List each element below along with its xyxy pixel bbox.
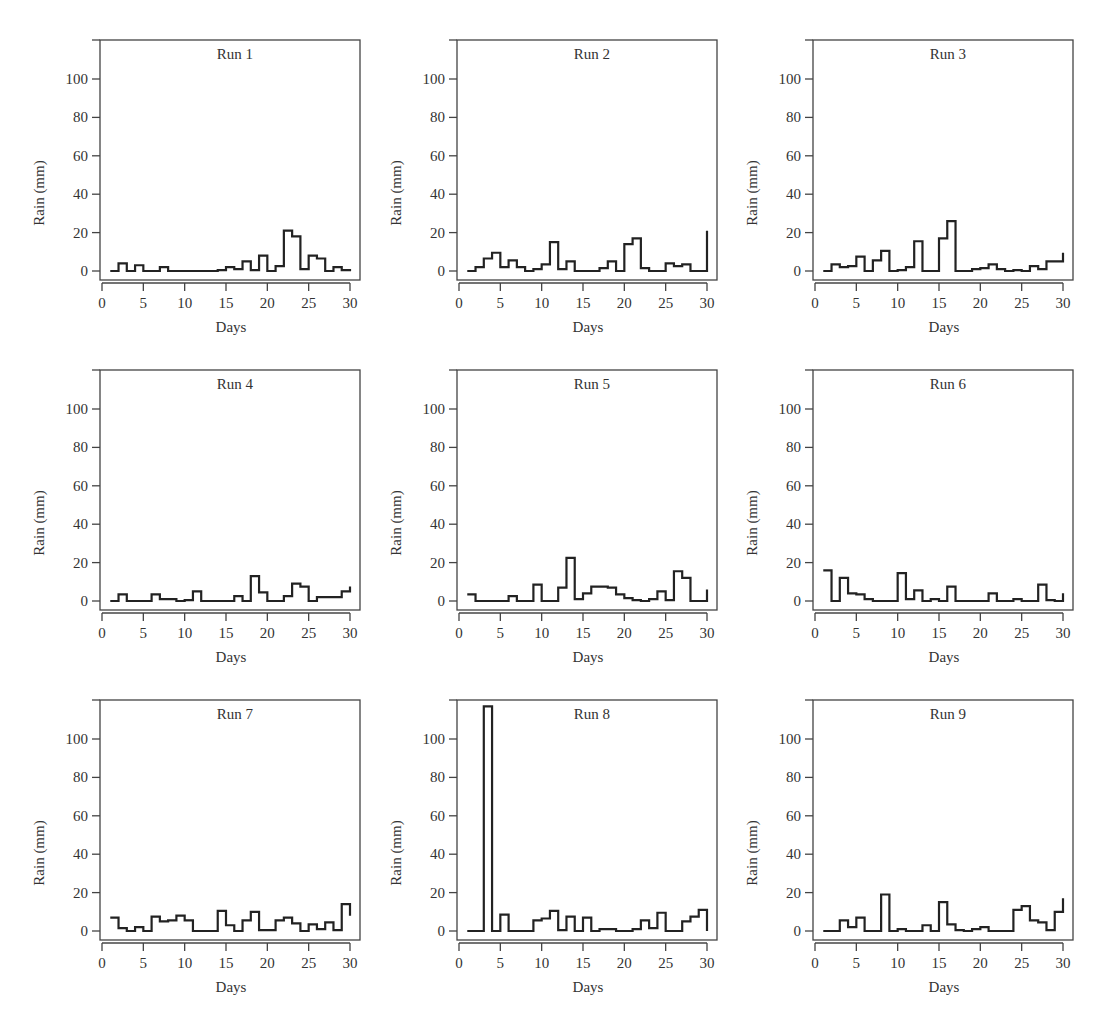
step-chart: 020406080100Rain (mm)051015202530DaysRun… — [357, 330, 737, 670]
step-chart: 020406080100Rain (mm)051015202530DaysRun… — [357, 0, 737, 340]
plot-frame — [100, 700, 360, 940]
y-tick-label: 20 — [786, 885, 801, 901]
y-axis: 020406080100 — [423, 700, 458, 939]
rain-series-line — [823, 221, 1063, 271]
y-axis-label: Rain (mm) — [744, 160, 761, 225]
rain-series-line — [467, 558, 707, 601]
y-tick-label: 20 — [786, 225, 801, 241]
y-tick-label: 40 — [73, 186, 88, 202]
plot-frame — [813, 700, 1073, 940]
x-tick-label: 5 — [497, 295, 505, 311]
y-axis-label: Rain (mm) — [31, 820, 48, 885]
chart-title: Run 1 — [217, 46, 253, 62]
y-axis: 020406080100 — [66, 370, 101, 609]
y-tick-label: 20 — [73, 885, 88, 901]
x-tick-label: 30 — [1056, 295, 1071, 311]
x-tick-label: 0 — [811, 625, 819, 641]
x-axis: 051015202530 — [811, 943, 1070, 971]
x-tick-label: 0 — [811, 295, 819, 311]
x-tick-label: 20 — [617, 955, 632, 971]
x-tick-label: 5 — [140, 295, 148, 311]
x-tick-label: 10 — [534, 295, 549, 311]
y-tick-label: 40 — [430, 516, 445, 532]
x-tick-label: 20 — [617, 295, 632, 311]
y-axis: 020406080100 — [66, 700, 101, 939]
y-tick-label: 100 — [779, 401, 802, 417]
y-tick-label: 80 — [73, 769, 88, 785]
y-axis-label: Rain (mm) — [744, 490, 761, 555]
x-tick-label: 10 — [890, 295, 905, 311]
y-tick-label: 80 — [430, 109, 445, 125]
y-tick-label: 40 — [430, 186, 445, 202]
y-axis: 020406080100 — [423, 370, 458, 609]
y-tick-label: 40 — [73, 516, 88, 532]
x-tick-label: 15 — [576, 625, 591, 641]
plot-frame — [100, 370, 360, 610]
rain-series-line — [467, 231, 707, 271]
x-tick-label: 25 — [1014, 625, 1029, 641]
y-axis-label: Rain (mm) — [31, 160, 48, 225]
chart-panel-run-8: 020406080100Rain (mm)051015202530DaysRun… — [357, 660, 717, 990]
x-tick-label: 30 — [343, 295, 358, 311]
y-tick-label: 0 — [81, 593, 89, 609]
y-tick-label: 40 — [430, 846, 445, 862]
y-tick-label: 80 — [786, 439, 801, 455]
x-tick-label: 10 — [890, 955, 905, 971]
y-tick-label: 60 — [430, 808, 445, 824]
y-tick-label: 100 — [779, 731, 802, 747]
x-axis-label: Days — [929, 979, 960, 995]
x-tick-label: 5 — [497, 625, 505, 641]
x-axis: 051015202530 — [98, 283, 357, 311]
x-tick-label: 5 — [140, 625, 148, 641]
y-axis: 020406080100 — [66, 40, 101, 279]
x-axis: 051015202530 — [811, 283, 1070, 311]
chart-title: Run 5 — [574, 376, 610, 392]
x-tick-label: 0 — [455, 295, 463, 311]
step-chart: 020406080100Rain (mm)051015202530DaysRun… — [0, 660, 380, 1000]
y-tick-label: 0 — [438, 593, 446, 609]
x-tick-label: 15 — [219, 295, 234, 311]
x-tick-label: 15 — [576, 955, 591, 971]
plot-frame — [457, 40, 717, 280]
y-tick-label: 100 — [423, 401, 446, 417]
x-tick-label: 0 — [455, 625, 463, 641]
x-tick-label: 25 — [1014, 295, 1029, 311]
rain-series-line — [823, 570, 1063, 601]
y-tick-label: 100 — [779, 71, 802, 87]
x-tick-label: 30 — [343, 625, 358, 641]
y-tick-label: 100 — [66, 731, 89, 747]
chart-title: Run 8 — [574, 706, 610, 722]
y-tick-label: 0 — [794, 923, 802, 939]
step-chart: 020406080100Rain (mm)051015202530DaysRun… — [0, 330, 380, 670]
chart-panel-run-4: 020406080100Rain (mm)051015202530DaysRun… — [0, 330, 360, 660]
step-chart: 020406080100Rain (mm)051015202530DaysRun… — [713, 0, 1093, 340]
chart-title: Run 6 — [930, 376, 967, 392]
y-tick-label: 20 — [73, 225, 88, 241]
x-tick-label: 0 — [98, 955, 106, 971]
x-tick-label: 30 — [1056, 625, 1071, 641]
y-tick-label: 60 — [73, 148, 88, 164]
y-tick-label: 100 — [66, 71, 89, 87]
y-tick-label: 0 — [794, 263, 802, 279]
x-tick-label: 10 — [534, 625, 549, 641]
x-tick-label: 10 — [534, 955, 549, 971]
y-tick-label: 0 — [81, 263, 89, 279]
x-axis: 051015202530 — [811, 613, 1070, 641]
x-tick-label: 10 — [177, 625, 192, 641]
x-tick-label: 25 — [658, 955, 673, 971]
y-tick-label: 80 — [786, 769, 801, 785]
chart-panel-run-6: 020406080100Rain (mm)051015202530DaysRun… — [713, 330, 1073, 660]
plot-frame — [100, 40, 360, 280]
chart-title: Run 3 — [930, 46, 966, 62]
y-tick-label: 60 — [430, 478, 445, 494]
x-axis: 051015202530 — [455, 943, 714, 971]
x-axis: 051015202530 — [455, 283, 714, 311]
chart-panel-run-7: 020406080100Rain (mm)051015202530DaysRun… — [0, 660, 360, 990]
x-tick-label: 30 — [1056, 955, 1071, 971]
x-tick-label: 15 — [576, 295, 591, 311]
x-tick-label: 20 — [973, 625, 988, 641]
step-chart: 020406080100Rain (mm)051015202530DaysRun… — [713, 660, 1093, 1000]
x-axis: 051015202530 — [455, 613, 714, 641]
y-tick-label: 40 — [786, 846, 801, 862]
rain-series-line — [467, 706, 707, 931]
